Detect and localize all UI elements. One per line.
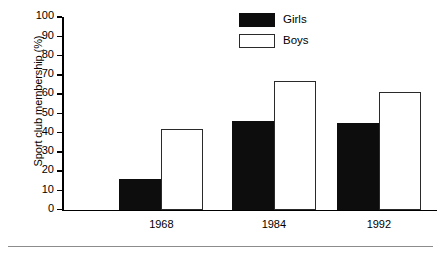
y-tick-label-70: 70 (42, 67, 54, 79)
bar-boys-1992 (379, 92, 421, 209)
y-tick-40: 40 (57, 132, 62, 134)
y-tick-50: 50 (57, 113, 62, 115)
y-tick-label-90: 90 (42, 29, 54, 41)
bar-boys-1968 (161, 129, 203, 210)
legend-swatch-girls-icon (239, 13, 275, 27)
x-axis-label-1968: 1968 (149, 218, 173, 230)
x-axis-label-1984: 1984 (262, 218, 286, 230)
y-tick-label-80: 80 (42, 48, 54, 60)
bar-girls-1992 (337, 123, 379, 210)
legend-item-girls: Girls (239, 11, 309, 28)
y-tick-label-10: 10 (42, 183, 54, 195)
y-tick-30: 30 (57, 151, 62, 153)
y-tick-0: 0 (57, 209, 62, 211)
legend-swatch-boys-icon (239, 34, 275, 48)
y-tick-100: 100 (57, 16, 62, 18)
y-tick-label-0: 0 (48, 202, 54, 214)
y-tick-80: 80 (57, 55, 62, 57)
x-axis-line (62, 210, 437, 212)
legend-label-girls: Girls (283, 13, 307, 26)
legend-item-boys: Boys (239, 32, 309, 49)
legend: Girls Boys (239, 11, 309, 53)
y-tick-70: 70 (57, 74, 62, 76)
legend-label-boys: Boys (283, 34, 309, 47)
y-tick-90: 90 (57, 36, 62, 38)
bar-chart: Sport club membership (%) 01020304050607… (0, 0, 443, 257)
y-tick-label-50: 50 (42, 106, 54, 118)
bar-girls-1968 (119, 179, 161, 210)
bottom-divider (8, 246, 433, 247)
y-tick-label-30: 30 (42, 144, 54, 156)
x-axis-label-1992: 1992 (367, 218, 391, 230)
y-tick-20: 20 (57, 170, 62, 172)
y-tick-label-100: 100 (36, 9, 54, 21)
y-tick-label-40: 40 (42, 125, 54, 137)
y-tick-60: 60 (57, 93, 62, 95)
y-tick-10: 10 (57, 190, 62, 192)
y-tick-label-20: 20 (42, 163, 54, 175)
y-axis-line (62, 17, 64, 211)
y-tick-label-60: 60 (42, 86, 54, 98)
bar-boys-1984 (274, 81, 316, 210)
bar-girls-1984 (232, 121, 274, 210)
